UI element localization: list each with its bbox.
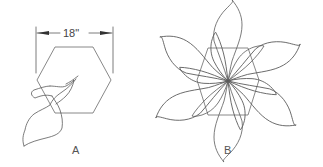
petal-b-6 xyxy=(151,9,246,93)
petal-a xyxy=(23,76,78,146)
panel-b-label: B xyxy=(224,145,231,156)
panel-a xyxy=(23,27,113,146)
petal-b-3 xyxy=(210,69,305,153)
diagram-canvas xyxy=(0,0,323,167)
panel-b xyxy=(140,0,316,162)
panel-a-label: A xyxy=(72,145,79,156)
arrowhead-right-icon xyxy=(100,31,112,35)
petal-b-5 xyxy=(140,50,235,134)
petals-b xyxy=(140,0,316,162)
dimension-label: 18" xyxy=(62,28,80,39)
petal-b-2 xyxy=(221,28,316,112)
arrowhead-left-icon xyxy=(37,31,49,35)
